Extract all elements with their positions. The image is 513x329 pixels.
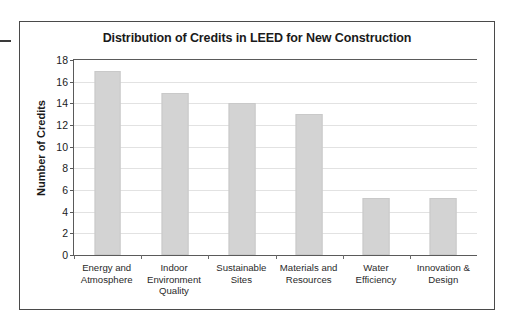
bar-series xyxy=(74,60,477,255)
y-axis-tick-label: 4 xyxy=(62,206,68,218)
y-axis-tick-label: 2 xyxy=(62,227,68,239)
bar xyxy=(430,198,457,255)
chart-title: Distribution of Credits in LEED for New … xyxy=(20,31,494,45)
x-axis-tick-mark xyxy=(410,255,411,259)
y-axis-tick-label: 18 xyxy=(56,54,68,66)
y-axis-tick-label: 12 xyxy=(56,119,68,131)
page-edge-artifact xyxy=(0,40,11,42)
bar-slot xyxy=(208,60,275,255)
x-axis-tick-label: Innovation & Design xyxy=(410,262,477,297)
x-axis-tick-mark xyxy=(276,255,277,259)
x-axis-tick-label: Water Efficiency xyxy=(342,262,409,297)
y-axis-tick-label: 16 xyxy=(56,76,68,88)
y-axis-tick-label: 8 xyxy=(62,162,68,174)
bar xyxy=(94,71,121,255)
bar xyxy=(161,93,188,256)
bar xyxy=(228,103,255,255)
x-axis-labels: Energy and AtmosphereIndoor Environment … xyxy=(73,262,477,297)
bar xyxy=(363,198,390,255)
y-axis-tick-label: 10 xyxy=(56,141,68,153)
plot-area: 024681012141618 xyxy=(73,59,477,256)
bar-slot xyxy=(141,60,208,255)
x-axis-tick-mark xyxy=(343,255,344,259)
bar-slot xyxy=(276,60,343,255)
y-axis-title: Number of Credits xyxy=(35,83,47,213)
y-axis-tick-label: 14 xyxy=(56,97,68,109)
y-axis-tick-label: 0 xyxy=(62,249,68,261)
x-axis-tick-mark xyxy=(141,255,142,259)
bar-slot xyxy=(343,60,410,255)
x-axis-tick-label: Materials and Resources xyxy=(275,262,342,297)
y-axis-tick-label: 6 xyxy=(62,184,68,196)
x-axis-tick-mark xyxy=(208,255,209,259)
x-axis-tick-mark xyxy=(74,255,75,259)
x-axis-tick-label: Indoor Environment Quality xyxy=(140,262,207,297)
bar-slot xyxy=(410,60,477,255)
bar-slot xyxy=(74,60,141,255)
x-axis-tick-label: Energy and Atmosphere xyxy=(73,262,140,297)
x-axis-tick-label: Sustainable Sites xyxy=(208,262,275,297)
bar xyxy=(296,114,323,255)
chart-figure: Distribution of Credits in LEED for New … xyxy=(19,21,495,310)
